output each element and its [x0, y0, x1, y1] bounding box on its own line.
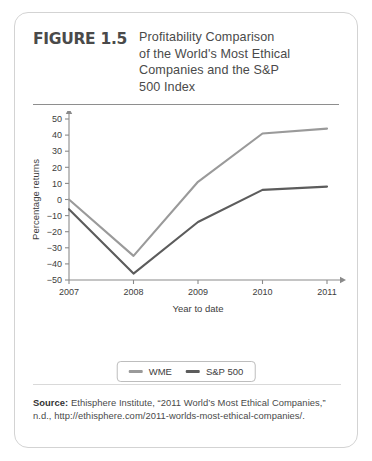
figure-title: Profitability Comparison of the World's …	[139, 29, 290, 95]
y-tick-label: −10	[47, 211, 62, 221]
y-axis-ticks: 50403020100−10−20−30−40−50	[47, 114, 69, 285]
x-tick-label: 2008	[123, 287, 143, 297]
figure-title-line-3: Companies and the S&P	[139, 62, 290, 79]
x-tick-label: 2009	[188, 287, 208, 297]
chart-axes	[66, 111, 346, 283]
y-tick-label: −50	[47, 275, 62, 285]
source-divider	[33, 384, 341, 385]
y-tick-label: 0	[57, 195, 62, 205]
x-tick-label: 2010	[252, 287, 272, 297]
header-divider	[33, 104, 339, 105]
y-tick-label: 40	[52, 130, 62, 140]
y-tick-label: 50	[52, 114, 62, 124]
figure-header: FIGURE 1.5 Profitability Comparison of t…	[15, 13, 357, 95]
figure-title-line-1: Profitability Comparison	[139, 29, 290, 46]
source-text: Ethisphere Institute, “2011 World’s Most…	[33, 397, 326, 421]
legend-item-wme[interactable]: WME	[129, 366, 172, 377]
y-tick-label: −20	[47, 227, 62, 237]
legend-label-wme: WME	[149, 366, 172, 377]
source-note: Source: Ethisphere Institute, “2011 Worl…	[33, 396, 341, 422]
x-axis-title: Year to date	[173, 303, 224, 314]
x-tick-label: 2011	[317, 287, 336, 297]
figure-title-line-4: 500 Index	[139, 79, 290, 96]
y-tick-label: −40	[47, 259, 62, 269]
x-axis-ticks: 20072008200920102011	[59, 280, 337, 297]
chart-svg: 50403020100−10−20−30−40−50 2007200820092…	[15, 111, 359, 343]
x-tick-label: 2007	[59, 287, 79, 297]
source-label: Source:	[33, 397, 68, 408]
figure-card: FIGURE 1.5 Profitability Comparison of t…	[14, 12, 358, 448]
figure-number-label: FIGURE 1.5	[33, 29, 127, 48]
legend-swatch-wme	[129, 370, 143, 372]
legend-swatch-sp500	[186, 370, 200, 372]
y-tick-label: 10	[52, 179, 62, 189]
y-axis-title: Percentage returns	[30, 159, 41, 240]
y-tick-label: −30	[47, 243, 62, 253]
y-tick-label: 30	[52, 146, 62, 156]
series-line-wme	[69, 129, 327, 256]
series-line-s-p-500	[69, 187, 327, 274]
chart-legend: WME S&P 500	[117, 361, 256, 382]
figure-title-line-2: of the World's Most Ethical	[139, 46, 290, 63]
legend-item-sp500[interactable]: S&P 500	[186, 366, 243, 377]
line-chart-plot: 50403020100−10−20−30−40−50 2007200820092…	[15, 111, 359, 343]
y-tick-label: 20	[52, 163, 62, 173]
chart-series-lines	[69, 129, 327, 274]
legend-label-sp500: S&P 500	[206, 366, 243, 377]
